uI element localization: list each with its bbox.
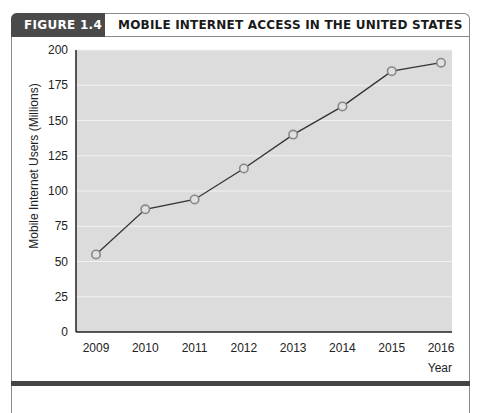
x-tick-label: 2014: [329, 341, 356, 355]
x-axis-title: Year: [428, 361, 452, 375]
x-tick-label: 2010: [132, 341, 159, 355]
data-point-marker: [92, 250, 100, 258]
y-tick-label: 125: [48, 149, 68, 163]
y-tick-label: 75: [55, 219, 69, 233]
y-axis-title: Mobile Internet Users (Millions): [27, 83, 41, 248]
y-tick-label: 0: [61, 325, 68, 339]
x-tick-label: 2015: [378, 341, 405, 355]
y-tick-label: 175: [48, 78, 68, 92]
x-tick-label: 2016: [428, 341, 455, 355]
x-tick-label: 2009: [83, 341, 110, 355]
y-tick-label: 50: [55, 255, 69, 269]
data-point-marker: [190, 195, 198, 203]
y-tick-label: 25: [55, 290, 69, 304]
bottom-rule: [11, 381, 470, 386]
data-point-marker: [338, 102, 346, 110]
x-tick-label: 2012: [231, 341, 258, 355]
x-tick-label: 2013: [280, 341, 307, 355]
x-tick-label: 2011: [182, 341, 208, 355]
data-point-marker: [240, 164, 248, 172]
y-tick-label: 100: [48, 184, 68, 198]
data-point-marker: [388, 67, 396, 75]
data-point-marker: [437, 58, 445, 66]
data-point-marker: [141, 205, 149, 213]
y-tick-label: 200: [48, 43, 68, 57]
y-tick-label: 150: [48, 114, 68, 128]
data-point-marker: [289, 130, 297, 138]
